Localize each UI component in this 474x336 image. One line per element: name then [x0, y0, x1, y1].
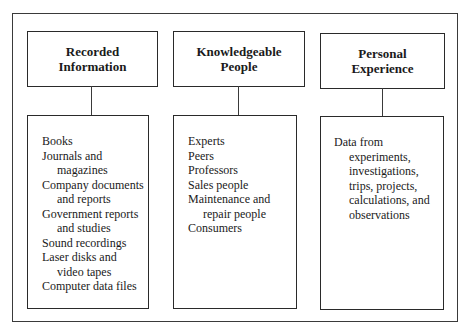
- list-item-continuation: observations: [334, 208, 435, 223]
- list-item-continuation: trips, projects,: [334, 179, 435, 194]
- list-item: Data from: [334, 135, 435, 150]
- list-knowledgeable-people: Experts Peers Professors Sales people Ma…: [173, 115, 297, 309]
- header-recorded-information: Recorded Information: [27, 31, 158, 87]
- connector-line: [382, 88, 383, 116]
- header-line: Experience: [351, 61, 413, 76]
- list-item-continuation: calculations, and: [334, 193, 435, 208]
- list-item: Company documents: [42, 178, 140, 193]
- list-item-continuation: and reports: [42, 192, 140, 207]
- list-item: Professors: [188, 163, 288, 178]
- list-item-continuation: and studies: [42, 221, 140, 236]
- list-recorded-information: Books Journals and magazines Company doc…: [27, 115, 149, 309]
- header-line: Personal: [351, 46, 413, 61]
- list-item: Laser disks and: [42, 250, 140, 265]
- connector-line: [238, 86, 239, 115]
- list-item: Government reports: [42, 207, 140, 222]
- list-item: Maintenance and: [188, 192, 288, 207]
- list-item-continuation: investigations,: [334, 164, 435, 179]
- header-line: People: [196, 59, 281, 74]
- connector-line: [91, 86, 92, 115]
- list-item: Consumers: [188, 221, 288, 236]
- header-line: Information: [59, 59, 127, 74]
- list-item-continuation: video tapes: [42, 265, 140, 280]
- list-item: Sales people: [188, 178, 288, 193]
- list-item-continuation: experiments,: [334, 150, 435, 165]
- list-item-continuation: magazines: [42, 163, 140, 178]
- list-item: Books: [42, 134, 140, 149]
- header-line: Knowledgeable: [196, 44, 281, 59]
- list-item: Sound recordings: [42, 236, 140, 251]
- list-item-continuation: repair people: [188, 207, 288, 222]
- header-personal-experience: Personal Experience: [320, 33, 445, 89]
- header-knowledgeable-people: Knowledgeable People: [173, 31, 305, 87]
- list-item: Experts: [188, 134, 288, 149]
- list-item: Peers: [188, 149, 288, 164]
- list-item: Journals and: [42, 149, 140, 164]
- header-line: Recorded: [59, 44, 127, 59]
- list-item: Computer data files: [42, 279, 140, 294]
- list-personal-experience: Data from experiments, investigations, t…: [320, 116, 444, 310]
